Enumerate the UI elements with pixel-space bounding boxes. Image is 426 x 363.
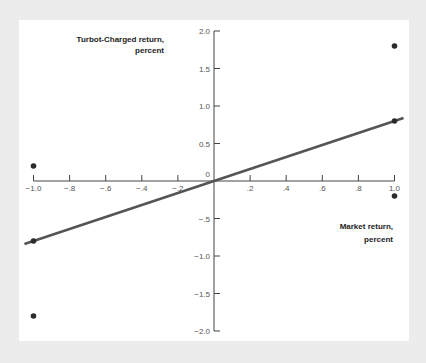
y-tick-label: 0 [206, 170, 211, 179]
y-tick-label: 2.0 [199, 27, 211, 36]
x-tick-label: −.4 [136, 184, 148, 193]
y-axis-title-line2: percent [135, 46, 164, 55]
data-point [31, 313, 37, 319]
y-tick-label: −2.0 [194, 327, 210, 336]
y-tick-label: 1.0 [199, 102, 211, 111]
x-tick-label: −.8 [64, 184, 76, 193]
scatter-chart: −1.0−.8−.6−.4−.2.2.4.6.81.0 2.01.51.00.5… [0, 0, 426, 363]
data-point [31, 238, 37, 244]
data-point [392, 43, 398, 49]
y-tick-label: 0.5 [199, 140, 211, 149]
x-tick-label: .6 [319, 184, 326, 193]
x-axis-ticks: −1.0−.8−.6−.4−.2.2.4.6.81.0 [26, 175, 401, 193]
x-tick-label: .8 [355, 184, 362, 193]
x-tick-label: −1.0 [26, 184, 42, 193]
x-axis-title-line2: percent [364, 235, 393, 244]
x-tick-label: .4 [283, 184, 290, 193]
x-axis-title-line1: Market return, [340, 222, 393, 231]
y-tick-label: −1.0 [194, 252, 210, 261]
x-tick-label: 1.0 [389, 184, 401, 193]
data-point [392, 193, 398, 199]
y-axis-title-line1: Turbot-Charged return, [77, 35, 164, 44]
data-point [392, 118, 398, 124]
x-tick-label: −.6 [100, 184, 112, 193]
data-point [31, 163, 37, 169]
y-tick-label: 1.5 [199, 65, 211, 74]
x-tick-label: .2 [247, 184, 254, 193]
y-tick-label: −1.5 [194, 290, 210, 299]
y-tick-label: −.5 [199, 215, 211, 224]
